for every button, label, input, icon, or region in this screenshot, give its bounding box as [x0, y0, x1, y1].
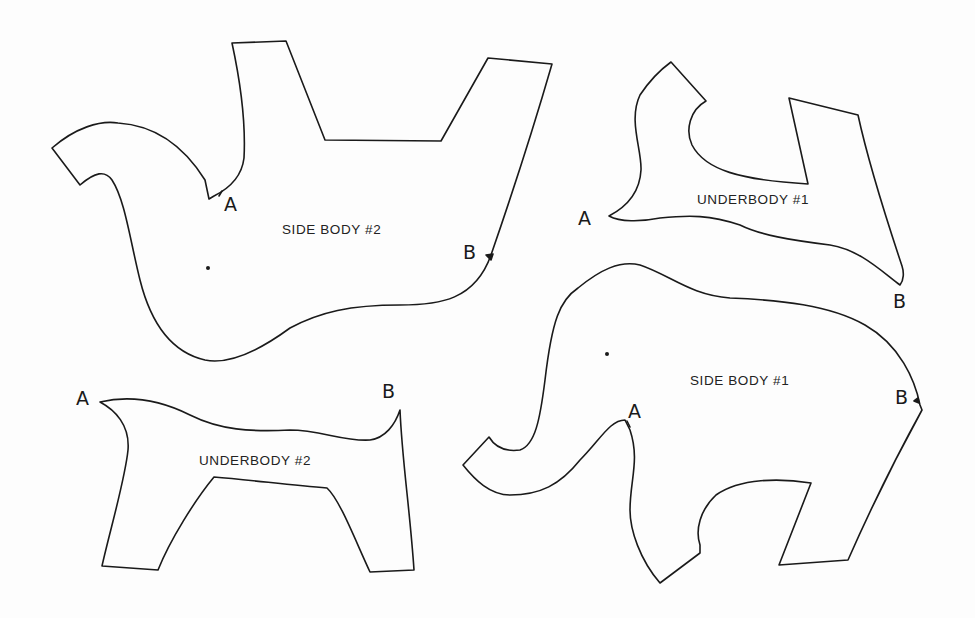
piece-label: UNDERBODY #1	[697, 192, 809, 207]
piece-label: SIDE BODY #2	[282, 222, 381, 237]
mark-a: A	[628, 400, 641, 422]
mark-b: B	[463, 241, 476, 263]
mark-b: B	[893, 290, 906, 312]
pattern-sheet: A B SIDE BODY #2 A B UNDERBODY #1 A B UN…	[0, 0, 975, 618]
piece-side-body-1: A B SIDE BODY #1	[463, 264, 922, 583]
piece-label: UNDERBODY #2	[199, 453, 311, 468]
underbody-1-outline	[609, 62, 903, 285]
piece-underbody-1: A B UNDERBODY #1	[578, 62, 906, 312]
notch-b-icon	[914, 398, 919, 403]
piece-side-body-2: A B SIDE BODY #2	[52, 41, 552, 361]
underbody-2-outline	[100, 399, 414, 572]
eye-dot-icon	[605, 352, 609, 356]
mark-b: B	[895, 386, 908, 408]
side-body-2-outline	[52, 41, 552, 361]
notch-b-icon	[486, 254, 493, 260]
piece-underbody-2: A B UNDERBODY #2	[76, 380, 414, 572]
mark-a: A	[76, 387, 89, 409]
mark-a: A	[224, 193, 237, 215]
mark-a: A	[578, 207, 591, 229]
mark-b: B	[382, 380, 395, 402]
piece-label: SIDE BODY #1	[690, 373, 789, 388]
side-body-1-outline	[463, 264, 922, 583]
eye-dot-icon	[206, 266, 210, 270]
